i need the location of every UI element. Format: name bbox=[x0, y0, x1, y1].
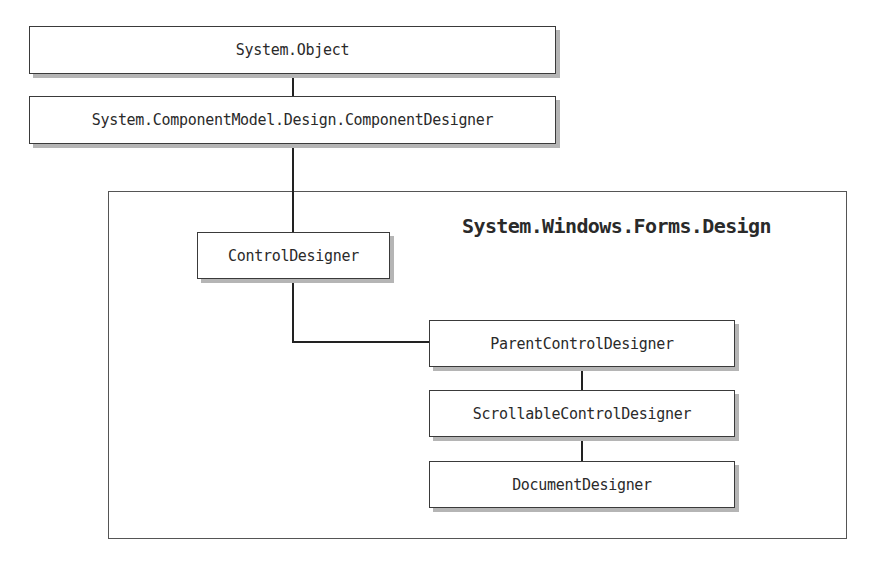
connector-scrollable-to-document bbox=[581, 436, 583, 461]
node-system-object: System.Object bbox=[29, 26, 556, 74]
node-scrollable-control-designer: ScrollableControlDesigner bbox=[429, 390, 735, 437]
node-label: ControlDesigner bbox=[228, 247, 359, 265]
node-label: System.ComponentModel.Design.ComponentDe… bbox=[92, 111, 494, 129]
connector-controldesigner-to-parentcontroldesigner bbox=[292, 341, 430, 343]
namespace-title: System.Windows.Forms.Design bbox=[462, 214, 771, 238]
connector-object-to-componentdesigner bbox=[292, 73, 294, 97]
connector-componentdesigner-to-controldesigner bbox=[292, 143, 294, 233]
node-component-designer: System.ComponentModel.Design.ComponentDe… bbox=[29, 96, 556, 144]
node-label: ScrollableControlDesigner bbox=[473, 405, 691, 423]
connector-controldesigner-down bbox=[292, 278, 294, 343]
node-label: System.Object bbox=[236, 41, 350, 59]
node-label: DocumentDesigner bbox=[512, 476, 652, 494]
node-document-designer: DocumentDesigner bbox=[429, 461, 735, 508]
node-parent-control-designer: ParentControlDesigner bbox=[429, 320, 735, 367]
node-control-designer: ControlDesigner bbox=[197, 232, 390, 279]
node-label: ParentControlDesigner bbox=[490, 335, 673, 353]
connector-parent-to-scrollable bbox=[581, 366, 583, 391]
